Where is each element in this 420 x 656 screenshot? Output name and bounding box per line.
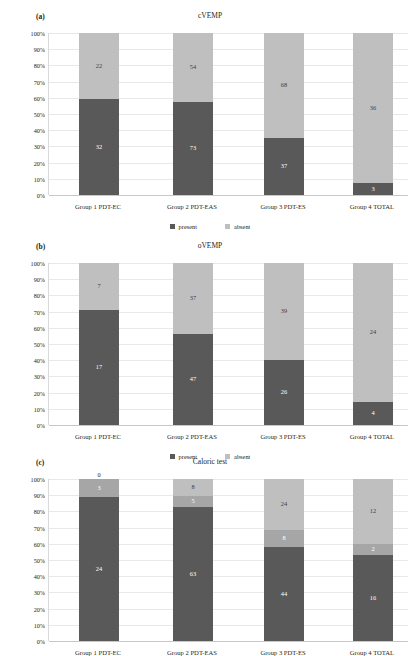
x-axis-label: Group 2 PDT-EAS — [147, 433, 237, 440]
bar-segment[interactable]: 63 — [173, 507, 213, 641]
stacked-bar[interactable]: 6358 — [173, 479, 213, 641]
bar-segment[interactable]: 8 — [264, 530, 304, 547]
y-axis-tick: 60% — [34, 324, 45, 331]
y-axis-tick: 0% — [37, 192, 45, 199]
y-axis-tick: 60% — [34, 540, 45, 547]
bar-segment[interactable]: 73 — [173, 102, 213, 195]
stacked-bar[interactable]: 3768 — [264, 33, 304, 195]
x-axis-label: Group 1 PDT-EC — [53, 433, 143, 440]
bar-value-label: 24 — [96, 566, 102, 572]
y-axis-tick: 40% — [34, 357, 45, 364]
bar-segment[interactable]: 7 — [79, 263, 119, 310]
panel-title: cVEMP — [0, 11, 420, 20]
bar-segment[interactable]: 24 — [264, 479, 304, 530]
stacked-bar[interactable]: 44824 — [264, 479, 304, 641]
bar-segment[interactable]: 47 — [173, 334, 213, 425]
bar-segment[interactable]: 4 — [353, 402, 393, 425]
y-axis-tick: 30% — [34, 143, 45, 150]
bar-segment[interactable]: 36 — [353, 33, 393, 183]
legend: presentabsent — [0, 223, 420, 230]
bar-value-label: 44 — [281, 591, 287, 597]
x-axis-label: Group 3 PDT-ES — [238, 433, 328, 440]
figure-canvas: (a)cVEMP100%90%80%70%60%50%40%30%20%10%0… — [0, 0, 420, 656]
stacked-bar[interactable]: 336 — [353, 33, 393, 195]
bar-value-label: 22 — [96, 63, 102, 69]
y-axis-tick: 50% — [34, 341, 45, 348]
x-axis-label: Group 3 PDT-ES — [238, 649, 328, 656]
bar-segment[interactable]: 44 — [264, 547, 304, 641]
bar-value-label: 47 — [190, 376, 196, 382]
x-axis-label: Group 3 PDT-ES — [238, 203, 328, 210]
legend-swatch-icon — [170, 224, 175, 229]
bar-value-label: 8 — [191, 484, 194, 490]
bar-value-label: 37 — [281, 163, 287, 169]
bar-segment[interactable]: 16 — [353, 555, 393, 641]
bar-value-label: 7 — [97, 283, 100, 289]
y-axis-tick: 50% — [34, 111, 45, 118]
y-axis-tick: 100% — [31, 260, 45, 267]
bar-segment[interactable]: 37 — [173, 263, 213, 334]
bar-segment[interactable]: 26 — [264, 360, 304, 425]
y-axis-tick: 10% — [34, 405, 45, 412]
y-axis-tick: 20% — [34, 159, 45, 166]
legend-label: absent — [234, 223, 250, 230]
x-axis-label: Group 2 PDT-EAS — [147, 649, 237, 656]
bar-segment[interactable]: 32 — [79, 99, 119, 195]
bar-segment[interactable]: 8 — [173, 479, 213, 496]
stacked-bar[interactable]: 16212 — [353, 479, 393, 641]
bar-segment[interactable]: 24 — [353, 263, 393, 402]
gridline — [49, 641, 408, 642]
stacked-bar[interactable]: 3222 — [79, 33, 119, 195]
bar-segment[interactable]: 12 — [353, 479, 393, 544]
plot-area: 17747372639424 — [48, 263, 408, 425]
bar-segment[interactable]: 54 — [173, 33, 213, 102]
bar-segment[interactable]: 37 — [264, 138, 304, 195]
bar-segment[interactable]: 5 — [173, 496, 213, 507]
panel-title: Caloric test — [0, 457, 420, 466]
bar-value-label: 16 — [370, 595, 376, 601]
bar-value-label: 0 — [97, 472, 100, 478]
x-axis-label: Group 2 PDT-EAS — [147, 203, 237, 210]
bar-segment[interactable]: 24 — [79, 497, 119, 641]
x-axis-label: Group 4 TOTAL — [327, 649, 417, 656]
stacked-bar[interactable]: 2639 — [264, 263, 304, 425]
x-axis-label: Group 1 PDT-EC — [53, 203, 143, 210]
y-axis-tick: 10% — [34, 621, 45, 628]
gridline — [49, 425, 408, 426]
legend-item[interactable]: absent — [225, 223, 250, 230]
stacked-bar[interactable]: 177 — [79, 263, 119, 425]
bar-segment[interactable]: 3 — [353, 183, 393, 195]
bar-value-label: 2 — [371, 546, 374, 552]
bar-value-label: 39 — [281, 308, 287, 314]
stacked-bar[interactable]: 4737 — [173, 263, 213, 425]
y-axis-tick: 70% — [34, 524, 45, 531]
bar-segment[interactable]: 22 — [79, 33, 119, 99]
bar-value-label: 63 — [190, 571, 196, 577]
gridline — [49, 195, 408, 196]
bar-value-label: 37 — [190, 295, 196, 301]
bar-segment[interactable]: 68 — [264, 33, 304, 138]
plot-area: 322273543768336 — [48, 33, 408, 195]
y-axis-tick: 30% — [34, 373, 45, 380]
stacked-bar[interactable]: 7354 — [173, 33, 213, 195]
y-axis-tick: 0% — [37, 638, 45, 645]
y-axis-tick: 60% — [34, 94, 45, 101]
panel-title: oVEMP — [0, 241, 420, 250]
y-axis-tick: 20% — [34, 605, 45, 612]
y-axis-tick: 30% — [34, 589, 45, 596]
bar-value-label: 3 — [97, 485, 100, 491]
y-axis-tick: 90% — [34, 46, 45, 53]
bar-segment[interactable]: 39 — [264, 263, 304, 360]
legend-item[interactable]: present — [170, 223, 197, 230]
y-axis-tick: 80% — [34, 508, 45, 515]
bar-value-label: 36 — [370, 105, 376, 111]
bar-segment[interactable]: 3 — [79, 479, 119, 497]
bar-value-label: 24 — [370, 329, 376, 335]
x-axis-label: Group 1 PDT-EC — [53, 649, 143, 656]
y-axis-tick: 90% — [34, 492, 45, 499]
bar-segment[interactable]: 2 — [353, 544, 393, 555]
bar-segment[interactable]: 17 — [79, 310, 119, 425]
stacked-bar[interactable]: 2430 — [79, 479, 119, 641]
stacked-bar[interactable]: 424 — [353, 263, 393, 425]
bar-value-label: 12 — [370, 508, 376, 514]
